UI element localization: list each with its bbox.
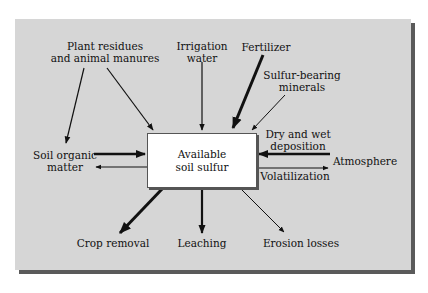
label-irrigation-water: Irrigation water bbox=[172, 40, 232, 64]
label-soil-organic-matter: Soil organic matter bbox=[30, 149, 100, 173]
arrow-box-to-erosion bbox=[240, 188, 284, 232]
arrow-residues-to-box bbox=[107, 68, 153, 130]
label-plant-residues: Plant residues and animal manures bbox=[50, 40, 160, 64]
label-crop-removal: Crop removal bbox=[68, 237, 158, 249]
label-leaching: Leaching bbox=[172, 237, 232, 249]
available-soil-sulfur-box: Available soil sulfur bbox=[147, 133, 257, 188]
center-label: Available soil sulfur bbox=[176, 148, 229, 174]
arrow-residues-to-organic bbox=[66, 68, 84, 143]
label-volatilization: Volatilization bbox=[260, 170, 330, 182]
arrow-box-to-crop bbox=[120, 188, 163, 233]
label-erosion-losses: Erosion losses bbox=[256, 237, 346, 249]
label-fertilizer: Fertilizer bbox=[236, 41, 296, 53]
arrow-minerals-to-box bbox=[252, 95, 285, 130]
label-atmosphere: Atmosphere bbox=[330, 155, 400, 167]
arrow-fertilizer-to-box bbox=[233, 55, 263, 128]
label-dry-wet-deposition: Dry and wet deposition bbox=[258, 128, 338, 152]
label-sulfur-minerals: Sulfur-bearing minerals bbox=[262, 69, 342, 93]
